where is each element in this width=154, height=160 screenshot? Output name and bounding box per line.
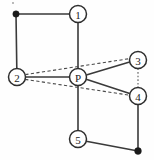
node-4-label: 4 — [135, 91, 141, 103]
node-4[interactable]: 4 — [130, 88, 147, 105]
graph-diagram: 1 2 P 3 4 5 — [0, 0, 154, 160]
node-p[interactable]: P — [70, 69, 87, 86]
node-2-label: 2 — [14, 72, 20, 84]
node-1-label: 1 — [75, 9, 81, 21]
edge-node5-to-terminal-bottomright — [86, 141, 138, 151]
node-3[interactable]: 3 — [130, 52, 147, 69]
edge-terminal-topleft-to-node2 — [16, 14, 17, 69]
terminal-dot-topleft — [13, 11, 19, 17]
node-1[interactable]: 1 — [70, 6, 87, 23]
node-5[interactable]: 5 — [70, 131, 87, 148]
node-3-label: 3 — [135, 55, 141, 67]
terminal-dot-bottomright — [135, 148, 142, 155]
diagram-canvas: 1 2 P 3 4 5 — [0, 0, 154, 160]
node-p-label: P — [75, 72, 81, 84]
edge-nodeP-to-node4 — [86, 79, 130, 93]
node-5-label: 5 — [75, 134, 81, 146]
artifact-speck — [12, 2, 14, 4]
node-2[interactable]: 2 — [9, 69, 26, 86]
